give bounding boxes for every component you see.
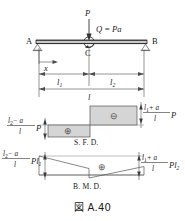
moment-label: Q = Pa [96,24,122,34]
sfd-right-denominator: l [154,115,156,123]
support-right-label: B [152,36,158,46]
sfd-left-value-label: l2− a l P [7,117,41,136]
sfd-plus-sign: ⊕ [64,126,72,136]
sfd-minus-sign: ⊖ [110,111,118,121]
support-right-roller [141,44,151,50]
support-left-pin [33,44,43,50]
sfd-left-factor: P [35,123,41,133]
bmd-left-factor: Pl1 [30,156,42,167]
dimension-extension-lines [39,47,144,97]
x-distance-label: x [43,63,48,73]
dim-l1-label: l1 [57,77,62,88]
sfd-left-dim [43,118,47,140]
hinge-label: C [85,48,91,58]
beam-shear-moment-diagram: P Q = Pa A [0,0,185,221]
beam-member [36,40,147,43]
dim-l-total-label: l [88,92,91,102]
sfd-left-numerator: l2− a [8,117,23,126]
bmd-left-numerator: l2− a [3,150,18,159]
bmd-right-numerator: l1+ a [142,154,157,163]
bmd-right-denominator: l [152,165,154,173]
bmd-left-value-label: l2− a l Pl1 [2,150,42,169]
point-load-label: P [84,8,90,18]
sfd-left-denominator: l [19,128,21,136]
sfd-name: S. F. D. [74,138,98,147]
figure-caption: 図 A.40 [0,199,185,214]
sfd-right-value-label: l1+ a l P [143,104,176,123]
bmd-left-denominator: l [14,161,16,169]
sfd-right-factor: P [170,110,176,120]
bmd-right-factor: Pl2 [168,160,180,171]
sfd-right-numerator: l1+ a [144,104,159,113]
dim-l-total [39,87,144,91]
sfd-right-dim [139,102,143,128]
dim-l2 [89,72,144,76]
bmd-right-value-label: l1+ a l Pl2 [141,154,180,173]
bmd-name: B. M. D. [73,182,101,191]
dim-l2-label: l2 [110,77,115,88]
bmd-plus-sign: ⊕ [98,162,106,172]
sfd-group: ⊕ ⊖ l2− a l P [7,102,176,147]
bmd-group: ⊕ l2− a l Pl1 [2,150,180,191]
bmd-shape [39,156,144,178]
support-left-label: A [26,36,33,46]
point-load-arrow [86,19,91,41]
beam-group: P Q = Pa A [26,8,158,102]
figure-root: P Q = Pa A [0,0,185,221]
